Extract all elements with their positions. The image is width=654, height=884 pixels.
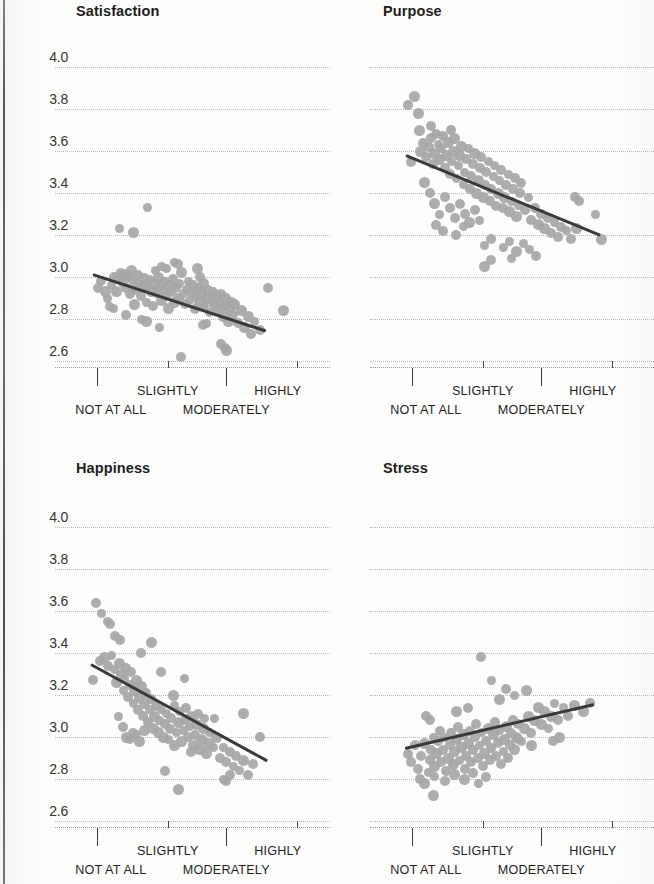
- gridline: [55, 653, 330, 654]
- scatter-point: [516, 178, 526, 188]
- scatter-point: [128, 227, 139, 238]
- scatter-point: [419, 177, 430, 188]
- panel-satisfaction: Satisfaction 4.03.83.63.43.23.02.82.6NOT…: [0, 0, 330, 440]
- y-axis-tick-label: 3.6: [34, 593, 68, 609]
- scatter-point: [209, 743, 218, 752]
- x-axis-tick: [226, 828, 227, 846]
- scatter-point: [134, 736, 145, 747]
- scatter-point: [200, 714, 209, 723]
- x-axis-tick: [412, 828, 413, 846]
- panel-stress: Stress NOT AT ALLSLIGHTLYMODERATELYHIGHL…: [330, 440, 654, 884]
- y-axis-tick-label: 3.0: [34, 719, 68, 735]
- x-axis-tick-label: NOT AT ALL: [390, 403, 461, 417]
- x-axis-tick: [541, 368, 542, 386]
- x-axis-tick: [226, 368, 227, 386]
- scatter-point: [494, 694, 505, 705]
- gridline: [55, 235, 330, 236]
- y-axis-tick-label: 3.0: [34, 259, 68, 275]
- scatter-point: [88, 675, 98, 685]
- scatter-point: [414, 125, 425, 136]
- gridline: [370, 569, 654, 570]
- scatter-point: [186, 747, 196, 757]
- gridline: [55, 151, 330, 152]
- scatter-point: [425, 715, 435, 725]
- scatter-point: [146, 637, 157, 648]
- scatter-point: [531, 251, 541, 261]
- x-axis-tick-label: SLIGHTLY: [452, 844, 514, 858]
- scatter-point: [509, 744, 520, 755]
- gridline: [55, 779, 330, 780]
- x-axis-tick: [168, 361, 169, 368]
- scatter-point: [451, 230, 461, 240]
- scatter-point: [278, 305, 289, 316]
- x-axis-tick-label: NOT AT ALL: [75, 403, 146, 417]
- panel-purpose: Purpose NOT AT ALLSLIGHTLYMODERATELYHIGH…: [330, 0, 654, 440]
- scatter-point: [553, 232, 563, 242]
- scatter-point: [176, 352, 186, 362]
- y-axis-tick-label: 3.2: [34, 217, 68, 233]
- scatter-point: [111, 286, 122, 297]
- plot-area-happiness: 4.03.83.63.43.23.02.82.6NOT AT ALLSLIGHT…: [0, 440, 330, 884]
- scatter-point: [476, 652, 486, 662]
- scatter-point: [486, 234, 496, 244]
- scatter-point: [524, 193, 533, 202]
- scatter-point: [243, 770, 253, 780]
- gridline: [370, 319, 654, 320]
- scatter-point: [168, 690, 179, 701]
- gridline: [370, 109, 654, 110]
- scatter-point: [238, 708, 249, 719]
- scatter-point: [169, 740, 180, 751]
- x-axis-tick-label: HIGHLY: [569, 844, 616, 858]
- scatter-point: [459, 222, 468, 231]
- scatter-point: [475, 216, 484, 225]
- plot-area-satisfaction: 4.03.83.63.43.23.02.82.6NOT AT ALLSLIGHT…: [0, 0, 330, 440]
- x-axis-tick: [612, 821, 613, 828]
- scatter-point: [118, 722, 128, 732]
- gridline: [370, 653, 654, 654]
- gridline: [370, 151, 654, 152]
- x-axis-tick: [612, 361, 613, 368]
- gridline: [55, 361, 330, 362]
- plot-area-stress: NOT AT ALLSLIGHTLYMODERATELYHIGHLY: [330, 440, 654, 884]
- scatter-point: [563, 711, 573, 721]
- scatter-point: [554, 732, 565, 743]
- scatter-point: [544, 724, 553, 733]
- x-axis-tick: [297, 821, 298, 828]
- scatter-point: [91, 598, 101, 608]
- y-axis-tick-label: 2.6: [34, 343, 68, 359]
- y-axis-tick-label: 3.4: [34, 635, 68, 651]
- scatter-point: [550, 699, 559, 708]
- scatter-point: [115, 224, 124, 233]
- x-axis-tick-label: SLIGHTLY: [137, 844, 199, 858]
- y-axis-tick-label: 3.8: [34, 91, 68, 107]
- gridline: [370, 527, 654, 528]
- scatter-point: [430, 772, 439, 781]
- scatter-point: [440, 776, 450, 786]
- y-axis-tick-label: 3.4: [34, 175, 68, 191]
- scatter-point: [425, 188, 435, 198]
- scatter-point: [162, 264, 171, 273]
- panel-happiness: Happiness 4.03.83.63.43.23.02.82.6NOT AT…: [0, 440, 330, 884]
- y-axis-tick-label: 3.6: [34, 133, 68, 149]
- scatter-point: [455, 199, 465, 209]
- x-axis-tick-label: MODERATELY: [498, 403, 585, 417]
- gridline: [370, 611, 654, 612]
- scatter-point: [248, 759, 258, 769]
- x-axis-tick-label: MODERATELY: [498, 863, 585, 877]
- scatter-point: [419, 778, 430, 789]
- scatter-point: [450, 213, 460, 223]
- scatter-point: [210, 714, 219, 723]
- scatter-point: [479, 261, 490, 272]
- gridline: [55, 193, 330, 194]
- scatter-point: [553, 715, 563, 725]
- plot-area-purpose: NOT AT ALLSLIGHTLYMODERATELYHIGHLY: [330, 0, 654, 440]
- scatter-point: [225, 770, 235, 780]
- gridline: [55, 527, 330, 528]
- scatter-point: [510, 691, 519, 700]
- x-axis-tick: [541, 828, 542, 846]
- scatter-point: [156, 667, 166, 677]
- x-axis-tick-label: NOT AT ALL: [75, 863, 146, 877]
- scatter-point: [263, 283, 273, 293]
- scatter-point: [136, 648, 146, 658]
- scatter-point: [481, 772, 491, 782]
